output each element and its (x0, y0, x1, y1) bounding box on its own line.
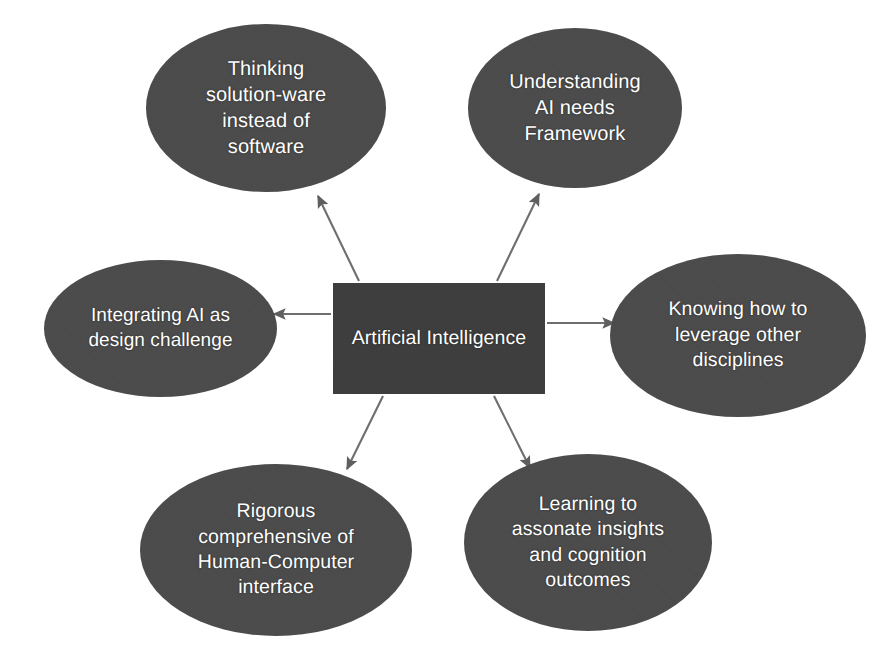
node-rigorous-comprehensive-human-computer-interface[interactable]: Rigorous comprehensive of Human-Computer… (140, 464, 412, 636)
node-understanding-ai-needs-framework[interactable]: Understanding AI needs Framework (468, 28, 682, 188)
node-learning-to-assonate-insights[interactable]: Learning to assonate insights and cognit… (464, 454, 712, 631)
node-thinking-solution-ware[interactable]: Thinking solution-ware instead of softwa… (146, 24, 386, 192)
diagram-canvas: Artificial Intelligence Thinking solutio… (0, 0, 888, 672)
node-top-right-label: Understanding AI needs Framework (503, 69, 646, 147)
node-right-label: Knowing how to leverage other discipline… (662, 297, 813, 373)
node-integrating-ai-as-design-challenge[interactable]: Integrating AI as design challenge (44, 260, 277, 397)
node-center-label: Artificial Intelligence (346, 326, 533, 351)
node-artificial-intelligence[interactable]: Artificial Intelligence (333, 283, 545, 394)
connector-center-to-bottom-right (494, 396, 530, 468)
node-left-label: Integrating AI as design challenge (82, 304, 238, 353)
connector-center-to-top-left (318, 196, 359, 281)
node-top-left-label: Thinking solution-ware instead of softwa… (200, 56, 332, 160)
node-bottom-left-label: Rigorous comprehensive of Human-Computer… (192, 499, 360, 600)
connector-center-to-bottom-left (347, 396, 383, 469)
connector-center-to-top-right (497, 194, 539, 281)
node-bottom-right-label: Learning to assonate insights and cognit… (506, 492, 670, 593)
node-knowing-how-to-leverage-other-disciplines[interactable]: Knowing how to leverage other discipline… (610, 254, 866, 417)
